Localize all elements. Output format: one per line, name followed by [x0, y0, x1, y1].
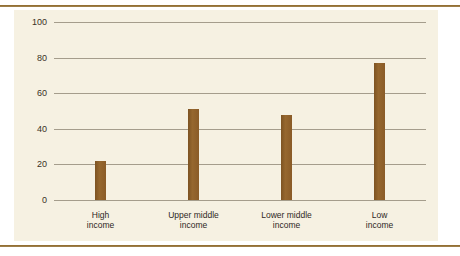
- x-axis-category-label-line: Low: [325, 210, 435, 220]
- y-axis-tick-label: 80: [14, 54, 47, 63]
- y-axis-tick-label: 100: [14, 18, 47, 27]
- gridline: [54, 129, 426, 130]
- y-axis-tick-label: 60: [14, 89, 47, 98]
- gridline: [54, 164, 426, 165]
- plot-panel: 020406080100 HighincomeUpper middleincom…: [14, 10, 438, 241]
- gridline: [54, 58, 426, 59]
- gridline: [54, 22, 426, 23]
- bar: [188, 109, 199, 200]
- x-axis-category-label-line: income: [325, 220, 435, 230]
- gridline: [54, 200, 426, 201]
- gridline: [54, 93, 426, 94]
- top-rule: [0, 5, 460, 7]
- y-axis-tick-label: 40: [14, 125, 47, 134]
- bar: [95, 161, 106, 200]
- plot-area: 020406080100 HighincomeUpper middleincom…: [14, 10, 438, 241]
- bar: [281, 115, 292, 200]
- chart-figure: 020406080100 HighincomeUpper middleincom…: [0, 0, 460, 256]
- y-axis-tick-label: 20: [14, 160, 47, 169]
- bottom-rule: [0, 245, 460, 247]
- bar: [374, 63, 385, 200]
- y-axis-tick-label: 0: [14, 196, 47, 205]
- x-axis-category-label: Lowincome: [325, 210, 435, 230]
